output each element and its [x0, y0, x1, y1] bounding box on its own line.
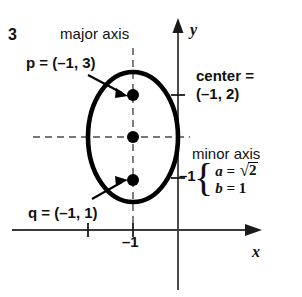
a-symbol: a	[215, 163, 223, 179]
point-p-dot	[127, 89, 139, 101]
y-axis-name: y	[190, 22, 197, 39]
major-axis-label: major axis	[60, 26, 129, 42]
semi-axis-values-group: { a = √2 b = 1	[194, 162, 258, 197]
center-label-line1: center =	[196, 67, 254, 84]
problem-number: 3	[8, 27, 17, 44]
x-axis-name: x	[252, 244, 260, 261]
figure-page: 3 major axis p = (–1, 3) q = (–1, 1) cen…	[0, 0, 302, 297]
y-axis-arrowhead	[173, 18, 184, 33]
point-q-leader-arrowhead	[115, 176, 128, 186]
a-equals-sign: =	[226, 163, 235, 179]
center-label-line2: (–1, 2)	[196, 86, 254, 102]
point-p-leader-arrowhead	[115, 88, 128, 98]
semi-axis-rows: a = √2 b = 1	[215, 162, 257, 197]
square-root-a-value: √2	[239, 162, 258, 180]
radicand: 2	[248, 162, 258, 179]
left-brace-glyph: {	[194, 162, 213, 195]
x-axis-arrowhead	[245, 224, 262, 236]
b-equals-sign: =	[226, 180, 235, 196]
point-q-dot	[127, 174, 139, 186]
semi-minor-row: b = 1	[215, 181, 257, 197]
b-value: 1	[239, 180, 247, 196]
point-center-dot	[127, 131, 139, 143]
center-label: center = (–1, 2)	[196, 68, 254, 102]
b-symbol: b	[215, 180, 223, 196]
x-axis-tick-label-minus-one: –1	[122, 234, 139, 250]
point-q-label: q = (–1, 1)	[28, 205, 98, 221]
point-p-label: p = (–1, 3)	[26, 55, 96, 71]
semi-major-row: a = √2	[215, 162, 257, 180]
